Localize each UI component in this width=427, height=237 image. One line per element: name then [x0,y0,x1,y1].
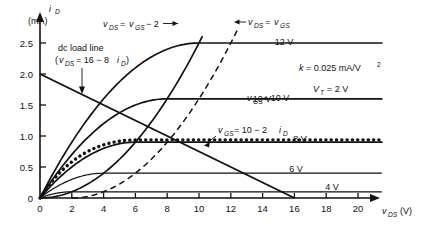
dotted-i-sub: D [283,130,288,137]
x-axis-label-symbol: v [382,206,387,216]
dotted-eq: = 10 − 2 [234,125,267,135]
x-tick-label: 16 [289,203,300,214]
curve-label-vGS_10V: 10 V [253,94,272,104]
x-tick-label: 4 [101,203,106,214]
dashed-v1: v [248,17,253,27]
x-axis-label-subscript: DS [388,211,398,218]
dashed-v2-sub: GS [280,22,290,29]
y-axis-label-symbol: i [49,4,52,14]
mosfet-output-characteristics-chart: 0246810121416182000.51.01.52.02.5 i D (m… [0,0,427,237]
device-params-annotation: k = 0.025 mA/V 2 V T = 2 V [299,61,381,96]
curve-label-vGS_6V: 6 V [289,164,303,174]
x-tick-label: 6 [133,203,138,214]
load-line-v: v [59,55,64,65]
x-tick-label: 18 [321,203,332,214]
x-tick-label: 2 [69,203,74,214]
load-line-eq: = 16 − 8 [76,55,109,65]
dotted-curve-annotation: v GS = 10 − 2 i D [204,125,288,148]
y-axis-label-units: (mA) [28,16,48,26]
y-tick-label: 0.5 [20,162,33,173]
boundary-v2: v [129,19,134,29]
load-line-paren-close: ) [126,55,129,65]
load-line-paren-open: ( [55,55,58,65]
boundary-v1-sub: DS [109,24,119,31]
curve-label-layer: 12 V10 V8 V6 V4 V [253,37,339,192]
curve-label-vGS_4V: 4 V [325,182,339,192]
boundary-v1: v [103,19,108,29]
param-vt-equation: = 2 V [327,84,348,94]
curve-label-vGS_12V: 12 V [275,37,294,47]
dashed-v2: v [274,17,279,27]
x-axis-arrowhead [370,194,380,202]
param-k-symbol: k [299,63,304,73]
x-tick-label: 10 [194,203,205,214]
y-tick-label: 2.5 [20,38,33,49]
x-tick-label: 8 [165,203,170,214]
dc-load-line [40,74,294,198]
x-axis-label-units: (V) [400,206,412,216]
x-tick-label: 20 [353,203,364,214]
x-tick-label: 12 [226,203,237,214]
boundary-tail: − 2 [146,19,159,29]
dashed-curve-annotation: v DS = v GS [234,17,290,29]
y-axis-label-subscript: D [55,8,60,15]
dotted-v-sub: GS [224,130,234,137]
load-line-v-sub: DS [65,60,75,67]
dotted-i: i [279,125,282,135]
param-k-equation: = 0.025 mA/V [306,63,361,73]
y-tick-label: 1.5 [20,100,33,111]
load-line-title: dc load line [58,43,104,53]
param-k-exponent: 2 [377,61,381,68]
y-tick-label: 2.0 [20,69,33,80]
boundary-v2-sub: GS [135,24,145,31]
x-tick-label: 0 [37,203,42,214]
output-curve-vGS_4V [40,192,382,198]
param-vt-subscript: T [320,89,325,96]
dotted-v: v [218,125,223,135]
boundary-arrowhead [173,21,179,26]
dashed-arrowhead [234,20,240,25]
curve-label-vGS_8V: 8 V [293,134,307,144]
y-tick-label: 1.0 [20,131,33,142]
y-axis-label: i D (mA) [28,4,60,26]
boundary-eq: = [120,19,125,29]
x-tick-label: 14 [257,203,268,214]
param-vt-symbol: V [313,84,320,94]
dashed-eq: = [265,17,270,27]
y-tick-label: 0 [28,193,33,204]
x-axis-label: v DS (V) [382,206,412,218]
dashed-v1-sub: DS [254,22,264,29]
boundary-annotation: v DS = v GS − 2 [103,19,178,31]
vgs10-v: v [247,93,252,103]
load-line-i: i [117,55,120,65]
